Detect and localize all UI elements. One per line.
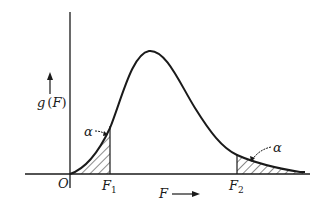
alpha-right-label: α [273,140,282,155]
f1-label: F1 [101,178,117,195]
f-distribution-diagram: g(F) O F1 F2 F α α [0,0,327,210]
left-tail-hatch [60,100,120,180]
y-axis-label: g(F) [37,95,67,110]
right-arrow-icon [192,191,200,197]
diagram-canvas: g(F) O F1 F2 F α α [0,0,327,210]
x-axis-label: F [158,186,169,201]
alpha-left-label: α [84,124,93,139]
up-arrow-icon [47,72,53,80]
origin-label: O [58,176,69,191]
f2-label: F2 [228,178,244,195]
